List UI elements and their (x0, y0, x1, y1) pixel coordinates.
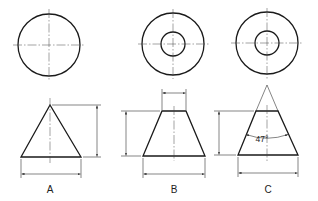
figure-label-b: B (171, 184, 178, 195)
technical-drawing: A B (0, 0, 318, 201)
figure-label-a: A (47, 184, 54, 195)
construction-line-right (267, 85, 278, 111)
frustum-outline (238, 111, 298, 155)
figure-a-elevation-view (21, 98, 101, 178)
figure-a-plan-view (13, 9, 85, 81)
figure-c-elevation-view: 47° (214, 85, 298, 177)
figure-a: A (13, 9, 101, 195)
cone-outline (21, 105, 81, 157)
figure-label-c: C (264, 184, 271, 195)
angle-label: 47° (256, 134, 269, 144)
construction-line-left (256, 85, 267, 111)
figure-b-elevation-view (121, 89, 205, 178)
figure-b-plan-view (138, 9, 209, 79)
figure-c: 47° C (214, 8, 303, 195)
figure-b: B (121, 9, 209, 195)
figure-c-plan-view (231, 8, 303, 79)
